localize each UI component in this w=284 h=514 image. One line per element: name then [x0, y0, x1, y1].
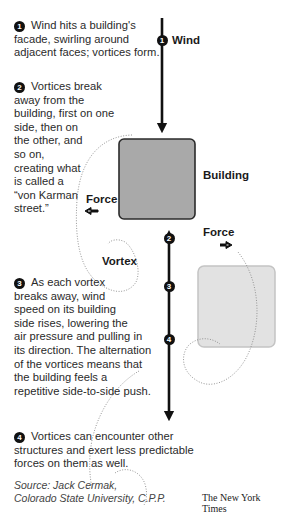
building-label: Building [203, 169, 249, 181]
step-3-text: 3As each vortex breaks away, wind speed … [14, 276, 151, 398]
step-4-number-icon: 4 [14, 432, 25, 443]
vortex-label: Vortex [102, 255, 137, 267]
force-arrow-right-icon [220, 242, 232, 249]
step-2-number-icon: 2 [14, 82, 25, 93]
marker-4: 4 [164, 334, 175, 345]
building [119, 139, 195, 219]
step-1-text: 1Wind hits a building's facade, swirling… [14, 19, 160, 60]
wind-label: Wind [172, 34, 200, 46]
ghost-building [198, 266, 275, 347]
step-4-text: 4Vortices can encounter other structures… [14, 430, 194, 471]
force-label-right: Force [203, 226, 234, 238]
credit-logo: The New York Times [202, 492, 284, 514]
step-3-number-icon: 3 [14, 278, 25, 289]
marker-3: 3 [164, 281, 175, 292]
step-1-number-icon: 1 [14, 21, 25, 32]
step-2-text: 2Vortices break away from the building, … [14, 80, 114, 216]
marker-2: 2 [164, 233, 175, 244]
source-note: Source: Jack Cermak, Colorado State Univ… [14, 479, 166, 505]
